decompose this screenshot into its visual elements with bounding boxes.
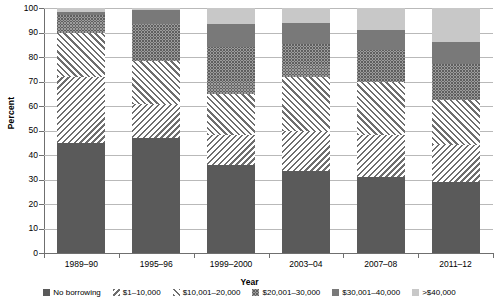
bar-segment[interactable] [357,50,405,82]
legend-swatch-icon [113,289,120,296]
bar-group[interactable] [282,8,330,253]
legend-label: No borrowing [53,288,101,297]
legend-label: $1–10,000 [123,288,161,297]
bar-group[interactable] [132,8,180,253]
bar-segment[interactable] [207,24,255,47]
gridline [44,155,493,156]
y-axis-tick-mark [39,33,44,34]
bar-segment[interactable] [432,100,480,145]
legend-swatch-icon [252,289,259,296]
gridline [44,180,493,181]
bar-segment[interactable] [432,8,480,42]
stacked-bar-chart: Percent 1009080706050403020100 1989–9019… [0,0,499,302]
bar-segment[interactable] [207,165,255,253]
y-axis-tick-mark [39,155,44,156]
x-axis-tick-mark [119,254,120,258]
bar-group[interactable] [432,8,480,253]
x-axis-title: Year [0,277,499,287]
bar-segment[interactable] [132,24,180,61]
legend-item[interactable]: >$40,000 [412,288,456,297]
y-axis-tick-label: 10 [4,224,38,233]
y-axis-tick-label: 30 [4,175,38,184]
legend-item[interactable]: No borrowing [43,288,101,297]
bar-segment[interactable] [282,77,330,131]
bar-segment[interactable] [357,177,405,253]
x-axis-tick-mark [269,254,270,258]
y-axis-tick-mark [39,8,44,9]
bar-segment[interactable] [357,82,405,136]
y-axis-tick-labels: 1009080706050403020100 [0,0,38,302]
bar-segment[interactable] [132,10,180,23]
x-axis-tick-mark [194,254,195,258]
bar-segment[interactable] [357,8,405,30]
bar-segment[interactable] [357,135,405,177]
x-axis-tick-mark [493,254,494,258]
legend-item[interactable]: $10,001–20,000 [173,288,241,297]
gridline [44,131,493,132]
bar-segment[interactable] [282,171,330,253]
gridline [44,8,493,9]
bar-segment[interactable] [57,77,105,143]
bar-segment[interactable] [207,47,255,94]
bar-segment[interactable] [432,182,480,253]
legend-label: $30,001–40,000 [342,288,400,297]
y-axis-tick-mark [39,180,44,181]
bar-segment[interactable] [57,8,105,12]
y-axis-tick-mark [39,106,44,107]
gridline [44,33,493,34]
legend-label: $20,001–30,000 [262,288,320,297]
bar-group[interactable] [357,8,405,253]
y-axis-tick-mark [39,204,44,205]
bar-segment[interactable] [57,143,105,253]
x-axis-tick-label: 2011–12 [411,259,499,269]
bar-segment[interactable] [432,145,480,182]
y-axis-tick-label: 20 [4,200,38,209]
plot-area [44,8,493,253]
bar-segment[interactable] [282,44,330,77]
bar-segment[interactable] [432,42,480,64]
bar-segment[interactable] [132,104,180,138]
bar-segment[interactable] [207,135,255,164]
y-axis-tick-mark [39,82,44,83]
y-axis-tick-mark [39,57,44,58]
y-axis-tick-mark [39,131,44,132]
gridline [44,204,493,205]
x-axis-tick-mark [44,254,45,258]
bar-segment[interactable] [282,131,330,171]
y-axis-tick-label: 100 [4,4,38,13]
legend-item[interactable]: $1–10,000 [113,288,161,297]
bar-segment[interactable] [132,138,180,253]
gridline [44,57,493,58]
bar-group[interactable] [57,8,105,253]
bar-segment[interactable] [207,8,255,24]
legend-swatch-icon [332,289,339,296]
bar-segment[interactable] [357,30,405,50]
bar-segment[interactable] [282,8,330,23]
chart-legend: No borrowing$1–10,000$10,001–20,000$20,0… [0,288,499,297]
gridline [44,82,493,83]
x-axis-tick-mark [343,254,344,258]
y-axis-tick-mark [39,229,44,230]
bar-segment[interactable] [207,94,255,136]
bar-segment[interactable] [57,33,105,77]
legend-item[interactable]: $20,001–30,000 [252,288,320,297]
legend-item[interactable]: $30,001–40,000 [332,288,400,297]
bar-segment[interactable] [432,64,480,100]
gridline [44,106,493,107]
legend-swatch-icon [43,289,50,296]
legend-swatch-icon [173,289,180,296]
legend-swatch-icon [412,289,419,296]
y-axis-tick-label: 70 [4,77,38,86]
bar-segment[interactable] [132,61,180,104]
y-axis-tick-label: 0 [4,249,38,258]
gridline [44,229,493,230]
bar-segment[interactable] [132,8,180,10]
bar-segment[interactable] [57,15,105,32]
y-axis-tick-label: 50 [4,126,38,135]
bar-group[interactable] [207,8,255,253]
bar-segment[interactable] [57,12,105,16]
legend-label: $10,001–20,000 [183,288,241,297]
y-axis-tick-label: 40 [4,151,38,160]
y-axis-tick-label: 90 [4,28,38,37]
bar-segment[interactable] [282,23,330,44]
